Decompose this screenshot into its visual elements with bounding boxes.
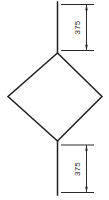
technical-drawing-canvas: 375 375 <box>0 0 109 200</box>
drawing-svg: 375 375 <box>0 0 109 200</box>
arrowhead-down-icon <box>85 187 88 193</box>
arrowhead-down-icon <box>85 45 88 51</box>
arrowhead-up-icon <box>85 145 88 151</box>
shape-geometry <box>8 2 102 195</box>
arrowhead-up-icon <box>85 5 88 11</box>
diamond-outline <box>8 53 102 141</box>
dimension-top-label: 375 <box>73 20 82 34</box>
dimension-bottom-label: 375 <box>73 162 82 176</box>
dimension-top: 375 <box>61 5 94 51</box>
dimension-bottom: 375 <box>61 145 94 193</box>
